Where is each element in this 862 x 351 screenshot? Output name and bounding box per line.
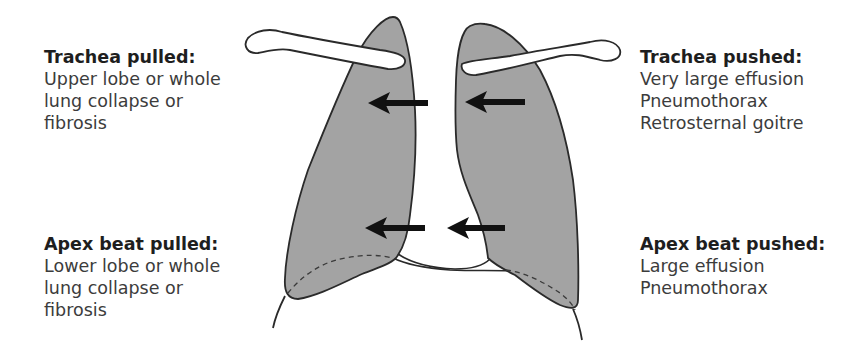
apex-pulled-line-3: fibrosis — [44, 299, 220, 321]
trachea-pushed-line-1: Very large effusion — [640, 68, 804, 90]
heading-apex-beat-pushed: Apex beat pushed: — [640, 233, 825, 255]
heading-trachea-pushed: Trachea pushed: — [640, 46, 804, 68]
label-trachea-pulled: Trachea pulled: Upper lobe or whole lung… — [44, 46, 221, 134]
trachea-pushed-line-3: Retrosternal goitre — [640, 112, 804, 134]
trachea-pulled-line-2: lung collapse or — [44, 90, 221, 112]
trachea-pulled-line-3: fibrosis — [44, 112, 221, 134]
left-chest-wall-curve — [273, 296, 285, 328]
apex-pulled-line-2: lung collapse or — [44, 277, 220, 299]
apex-pulled-line-1: Lower lobe or whole — [44, 255, 220, 277]
heart-outline — [398, 254, 490, 269]
heading-trachea-pulled: Trachea pulled: — [44, 46, 221, 68]
label-trachea-pushed: Trachea pushed: Very large effusion Pneu… — [640, 46, 804, 134]
label-apex-beat-pushed: Apex beat pushed: Large effusion Pneumot… — [640, 233, 825, 299]
heading-apex-beat-pulled: Apex beat pulled: — [44, 233, 220, 255]
apex-pushed-line-1: Large effusion — [640, 255, 825, 277]
apex-pushed-line-2: Pneumothorax — [640, 277, 825, 299]
right-chest-wall-curve — [573, 309, 582, 340]
trachea-pushed-line-2: Pneumothorax — [640, 90, 804, 112]
label-apex-beat-pulled: Apex beat pulled: Lower lobe or whole lu… — [44, 233, 220, 321]
trachea-pulled-line-1: Upper lobe or whole — [44, 68, 221, 90]
